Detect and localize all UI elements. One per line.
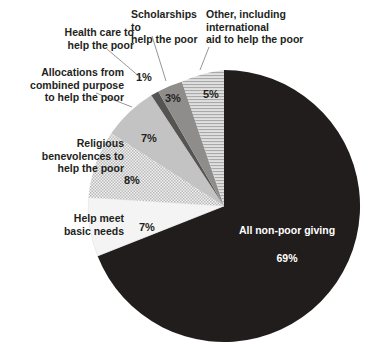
center-label-all-non-poor-giving: All non-poor giving bbox=[222, 224, 352, 236]
callout-allocations-combined-purpose: Allocations from combined purpose to hel… bbox=[6, 66, 124, 104]
slice-label-other-international-aid: 5% bbox=[203, 88, 219, 100]
leader-line-other bbox=[200, 47, 209, 70]
slice-label-help-meet-basic-needs: 7% bbox=[139, 221, 155, 233]
slice-label-allocations-combined-purpose: 7% bbox=[141, 132, 157, 144]
callout-health-care: Health care to help the poor bbox=[26, 26, 134, 51]
center-label-all-non-poor-giving-value: 69% bbox=[222, 252, 352, 264]
pie-slices bbox=[88, 70, 360, 342]
pie-chart: Health care to help the poor Scholarship… bbox=[0, 0, 366, 358]
callout-religious-benevolences: Religious benevolences to help the poor bbox=[10, 137, 124, 175]
pie-svg bbox=[0, 0, 366, 358]
slice-label-health-care: 1% bbox=[136, 71, 152, 83]
slice-label-religious-benevolences: 8% bbox=[124, 174, 140, 186]
callout-scholarships: Scholarships to help the poor bbox=[131, 8, 209, 46]
callout-other-international-aid: Other, including international aid to he… bbox=[206, 8, 324, 46]
slice-label-scholarships: 3% bbox=[165, 92, 181, 104]
callout-help-meet-basic-needs: Help meet basic needs bbox=[28, 212, 124, 237]
